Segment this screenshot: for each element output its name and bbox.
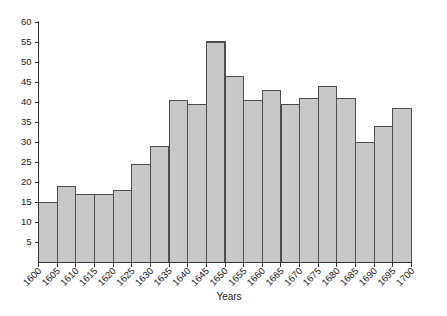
bar (244, 100, 263, 262)
bar (300, 98, 319, 262)
histogram-figure: 51015202530354045505560 1600160516101615… (0, 0, 447, 316)
y-tick-label: 10 (21, 216, 32, 227)
bars-group (39, 42, 412, 262)
x-tick-label: 1670 (282, 265, 305, 288)
bar (262, 90, 281, 262)
bar (393, 108, 412, 262)
x-tick-label: 1685 (338, 265, 361, 288)
x-tick-label: 1700 (394, 265, 417, 288)
bar (225, 76, 244, 262)
bar (94, 194, 113, 262)
x-tick-label: 1600 (21, 265, 44, 288)
x-tick-label: 1610 (58, 265, 81, 288)
y-tick-label: 20 (21, 176, 32, 187)
x-tick-label: 1660 (244, 265, 267, 288)
x-tick-label: 1675 (300, 265, 323, 288)
bar (188, 104, 207, 262)
y-tick-label: 15 (21, 196, 32, 207)
y-tick-label: 5 (26, 236, 31, 247)
bar (169, 100, 188, 262)
bar (337, 98, 356, 262)
x-tick-label: 1690 (356, 265, 379, 288)
y-tick-label: 45 (21, 76, 32, 87)
x-tick-label: 1605 (39, 265, 62, 288)
bar (113, 190, 132, 262)
bar (374, 126, 393, 262)
bar (206, 42, 225, 262)
x-tick-label: 1635 (151, 265, 174, 288)
x-tick-label: 1645 (189, 265, 212, 288)
x-tick-label: 1625 (114, 265, 137, 288)
x-tick-label: 1630 (133, 265, 156, 288)
y-tick-label: 60 (21, 16, 32, 27)
bar (39, 202, 58, 262)
bar (76, 194, 95, 262)
x-tick-label: 1640 (170, 265, 193, 288)
bar (150, 146, 169, 262)
x-axis-title: Years (216, 291, 241, 302)
x-tick-label: 1655 (226, 265, 249, 288)
y-tick-label: 40 (21, 96, 32, 107)
x-tick-label: 1665 (263, 265, 286, 288)
y-tick-label: 50 (21, 56, 32, 67)
x-tick-label: 1695 (375, 265, 398, 288)
chart-canvas: 51015202530354045505560 1600160516101615… (0, 0, 447, 316)
x-tick-label: 1650 (207, 265, 230, 288)
bar (318, 86, 337, 262)
x-tick-label: 1680 (319, 265, 342, 288)
x-tick-label: 1620 (95, 265, 118, 288)
y-axis: 51015202530354045505560 (21, 16, 39, 263)
bar (281, 104, 300, 262)
x-tick-label: 1615 (77, 265, 100, 288)
y-tick-label: 25 (21, 156, 32, 167)
y-tick-label: 30 (21, 136, 32, 147)
bar (57, 186, 76, 262)
bar (132, 164, 151, 262)
y-tick-label: 55 (21, 36, 32, 47)
y-tick-label: 35 (21, 116, 32, 127)
x-axis: 1600160516101615162016251630163516401645… (21, 263, 417, 288)
bar (356, 142, 375, 262)
